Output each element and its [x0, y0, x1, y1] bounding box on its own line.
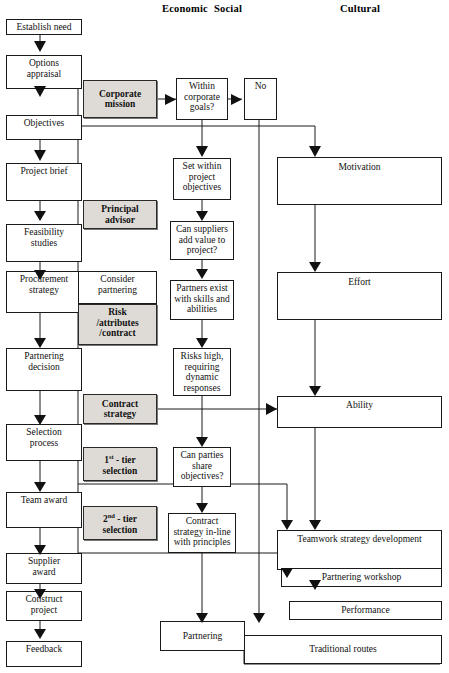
node-label: Risk/attributes/contract	[79, 307, 156, 339]
node-label: Corporatemission	[84, 89, 156, 110]
node-set-within-project-objectives[interactable]: Set withinprojectobjectives	[173, 158, 231, 200]
node-label: 1st - tierselection	[84, 452, 156, 476]
node-label: Risks high,requiringdynamicresponses	[174, 351, 230, 393]
node-label: Supplieraward	[7, 556, 81, 577]
node-label: Project brief	[7, 166, 81, 177]
node-first-tier-selection[interactable]: 1st - tierselection	[83, 447, 157, 481]
node-label: Selectionprocess	[7, 427, 81, 448]
node-can-parties-share-objectives[interactable]: Can partiesshareobjectives?	[173, 447, 231, 487]
node-feasibility-studies[interactable]: Feasibilitystudies	[6, 224, 82, 262]
node-label: Ability	[278, 400, 441, 411]
node-label: Partners existwith skills andabilities	[171, 283, 233, 315]
node-partnering-workshop[interactable]: Partnering workshop	[281, 568, 442, 587]
node-label: Can suppliersadd value toproject?	[171, 224, 233, 256]
node-label: Motivation	[278, 162, 441, 173]
node-label: Principaladvisor	[84, 204, 156, 225]
node-within-corporate-goals[interactable]: Withincorporategoals?	[176, 78, 228, 120]
node-label: Performance	[290, 605, 441, 616]
node-principal-advisor[interactable]: Principaladvisor	[83, 200, 157, 229]
node-label: Establish need	[7, 22, 81, 33]
node-label: Contractstrategy	[84, 399, 156, 420]
node-traditional-routes[interactable]: Traditional routes	[244, 635, 442, 664]
node-label: Teamwork strategy development	[278, 534, 441, 545]
node-team-award[interactable]: Team award	[6, 492, 82, 528]
node-second-tier-selection[interactable]: 2nd - tierselection	[83, 506, 157, 540]
node-label: 2nd - tierselection	[84, 511, 156, 535]
node-motivation[interactable]: Motivation	[277, 157, 442, 205]
node-label: Procurementstrategy	[7, 274, 81, 295]
node-feedback[interactable]: Feedback	[6, 641, 82, 667]
node-corporate-mission[interactable]: Corporatemission	[83, 80, 157, 118]
flowchart-canvas: Economic Social Cultural	[0, 0, 449, 673]
node-label: Objectives	[7, 118, 81, 129]
node-label: Partnering	[161, 631, 244, 642]
node-ability[interactable]: Ability	[277, 396, 442, 428]
node-objectives[interactable]: Objectives	[6, 115, 82, 140]
node-teamwork-strategy-development[interactable]: Teamwork strategy development	[277, 530, 442, 570]
node-label: Can partiesshareobjectives?	[174, 450, 230, 482]
node-contract-strategy[interactable]: Contractstrategy	[83, 394, 157, 424]
node-label: Withincorporategoals?	[177, 81, 227, 113]
node-options-appraisal[interactable]: Optionsappraisal	[6, 55, 82, 89]
node-performance[interactable]: Performance	[289, 601, 442, 620]
node-label: Feasibilitystudies	[7, 227, 81, 248]
node-label: Considerpartnering	[79, 274, 156, 295]
node-effort[interactable]: Effort	[277, 272, 442, 320]
node-no[interactable]: No	[244, 78, 277, 120]
node-label: Optionsappraisal	[7, 58, 81, 79]
node-label: Partnering workshop	[282, 572, 441, 583]
node-label: Traditional routes	[245, 644, 441, 655]
node-procurement-strategy[interactable]: Procurementstrategy	[6, 271, 82, 313]
node-consider-partnering[interactable]: Considerpartnering	[78, 271, 157, 304]
node-construct-project[interactable]: Constructproject	[6, 591, 82, 621]
node-selection-process[interactable]: Selectionprocess	[6, 424, 82, 461]
node-label: Effort	[278, 277, 441, 288]
node-risk-attributes-contract[interactable]: Risk/attributes/contract	[78, 304, 157, 345]
node-supplier-award[interactable]: Supplieraward	[6, 553, 82, 584]
node-label: Feedback	[7, 644, 81, 655]
node-risks-high[interactable]: Risks high,requiringdynamicresponses	[173, 348, 231, 396]
node-partnering[interactable]: Partnering	[160, 621, 245, 651]
node-label: Team award	[7, 495, 81, 506]
node-can-suppliers-add-value[interactable]: Can suppliersadd value toproject?	[170, 221, 234, 260]
node-label: Constructproject	[7, 594, 81, 615]
node-project-brief[interactable]: Project brief	[6, 163, 82, 201]
node-label: Set withinprojectobjectives	[174, 161, 230, 193]
node-label: Contractstrategy in-linewith principles	[169, 516, 235, 548]
node-contract-strategy-in-line[interactable]: Contractstrategy in-linewith principles	[168, 513, 236, 553]
node-partners-exist[interactable]: Partners existwith skills andabilities	[170, 280, 234, 320]
node-label: No	[245, 81, 276, 92]
node-label: Partneringdecision	[7, 351, 81, 372]
node-partnering-decision[interactable]: Partneringdecision	[6, 348, 82, 391]
node-establish-need[interactable]: Establish need	[6, 19, 82, 35]
